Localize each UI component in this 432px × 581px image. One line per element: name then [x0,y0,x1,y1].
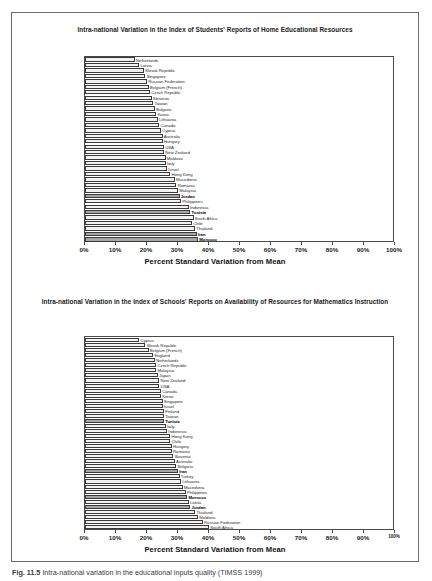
bar-row: Romania [85,183,395,187]
x-axis: 0%10%20%30%40%50%60%70%80%90%100% [84,242,394,256]
x-tick [270,530,271,533]
bar-chile [85,439,170,443]
chart-panel-school-resources: Intra-national Variation in the Index of… [12,291,418,561]
bar-label: Thailand [195,226,212,231]
x-tick-label: 20% [140,534,152,541]
figure-caption: Fig. 11.5 Intra-national variation in th… [12,568,432,577]
bar-row: Bulgaria [85,464,395,468]
bar-row: Latvia [85,500,395,504]
x-tick-label: 0% [80,534,89,541]
bar-iran [85,232,197,236]
x-tick [301,242,302,245]
bar-row: Australia [85,459,395,463]
bar-thailand [85,510,195,514]
bar-malaysia [85,368,156,372]
bar-label: Italy [166,161,175,166]
bar-usa [85,384,159,388]
bar-japan [85,373,158,377]
bar-bulgaria [85,464,176,468]
bar-romania [85,449,172,453]
bar-russian-federation [85,520,203,524]
x-tick [146,242,147,245]
bar-iran [85,469,178,473]
bar-new-zealand [85,150,164,154]
bar-row: Australia [85,134,395,138]
bar-singapore [85,399,163,403]
bar-label: South Africa [209,524,233,529]
bar-hungary [85,139,163,143]
x-tick-label: 20% [140,246,152,253]
bar-row: England [85,353,395,357]
x-tick-label: 60% [264,246,276,253]
bar-belgium-french- [85,85,149,89]
bar-row: Korea [85,112,395,116]
bar-row: Tunisia [85,419,395,423]
bar-row: Malaysia [85,368,395,372]
bar-cyprus [85,128,161,132]
bar-label: Jordan [180,193,195,198]
bar-row: South Africa [85,215,395,219]
bar-slovak-republic [85,68,144,72]
bar-macedonia [85,177,175,181]
bar-slovenia [85,454,173,458]
bar-cyprus [85,338,139,342]
bar-row: Macedonia [85,177,395,181]
bar-row: Cyprus [85,128,395,132]
bar-row: Finland [85,409,395,413]
x-tick-label: 70% [295,246,307,253]
chart-title-school-resources: Intra-national Variation in the Index of… [12,297,418,306]
bar-italy [85,424,166,428]
chart-panel-home-resources: Intra-national Variation in the Index of… [12,19,418,291]
bar-row: Slovenia [85,454,395,458]
x-tick [146,530,147,533]
bar-label: Canada [159,122,175,127]
bar-label: Chile [192,221,203,226]
bar-label: Philippines [181,199,202,204]
bar-row: Morocco [85,237,395,241]
bar-row: Jordan [85,505,395,509]
bar-taiwan [85,414,164,418]
bar-row: Hungary [85,139,395,143]
bar-chile [85,221,192,225]
x-tick-label: 80% [326,246,338,253]
bar-label: New Zealand [164,150,190,155]
bar-turkey [85,474,180,478]
bar-row: Iran [85,232,395,236]
bar-row: Iran [85,469,395,473]
bar-row: Thailand [85,510,395,514]
bar-moldova [85,515,198,519]
bar-row: USA [85,145,395,149]
bar-row: Israel [85,404,395,408]
x-tick-label: 50% [233,534,245,541]
bar-label: Singapore [145,73,165,78]
bar-australia [85,459,175,463]
bar-canada [85,389,161,393]
bar-row: Romania [85,449,395,453]
bar-latvia [85,500,189,504]
bar-philippines [85,199,181,203]
bar-label: Latvia [139,62,151,67]
bar-label: Slovenia [152,95,169,100]
bar-row: Russian Federation [85,520,395,524]
x-tick [301,530,302,533]
bar-row: Turkey [85,474,395,478]
x-tick-label: 0% [80,246,89,253]
bar-row: Czech Republic [85,363,395,367]
x-tick [115,242,116,245]
x-tick [239,242,240,245]
bar-row: New Zealand [85,378,395,382]
figure-caption-number: Fig. 11.5 [12,568,40,577]
bar-italy [85,161,166,165]
bar-morocco [85,495,187,499]
bar-row: Moldova [85,515,395,519]
x-tick [239,530,240,533]
bar-label: Korea [156,112,168,117]
bar-row: Italy [85,161,395,165]
bar-label: Iran [197,231,206,236]
x-tick-label: 80% [326,534,338,541]
bar-moldova [85,155,166,159]
bar-row: Slovak Republic [85,343,395,347]
bar-label: Bulgaria [155,106,172,111]
bar-row: Korea [85,394,395,398]
x-tick-label: 40% [202,246,214,253]
